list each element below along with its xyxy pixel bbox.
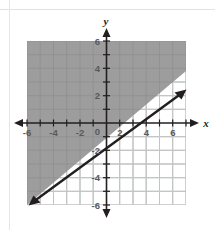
y-tick-label: 2 [95, 90, 100, 101]
origin-label: 0 [95, 126, 100, 137]
y-tick-label: -2 [92, 145, 100, 156]
x-axis-label: x [202, 117, 209, 129]
y-axis-label: y [102, 15, 109, 27]
y-axis-arrow-up [103, 28, 111, 37]
x-tick-label: -2 [76, 127, 84, 138]
y-tick-label: 6 [95, 36, 100, 47]
x-tick-label: 6 [170, 127, 175, 138]
x-tick-label: -6 [23, 127, 31, 138]
x-tick-label: 2 [117, 127, 122, 138]
x-axis-arrow-right [190, 119, 199, 127]
y-tick-label: 4 [95, 63, 101, 74]
x-tick-label: -4 [49, 127, 58, 138]
y-axis-arrow-down [103, 209, 111, 218]
y-tick-label: -6 [92, 200, 100, 211]
coordinate-plane: -6 -4 -2 2 4 6 6 4 2 -2 -4 -6 0 x y [0, 0, 215, 230]
y-tick-label: -4 [92, 172, 101, 183]
x-tick-label: 4 [144, 127, 150, 138]
x-axis-arrow-left [14, 119, 23, 127]
graph-figure: -6 -4 -2 2 4 6 6 4 2 -2 -4 -6 0 x y [0, 0, 215, 230]
